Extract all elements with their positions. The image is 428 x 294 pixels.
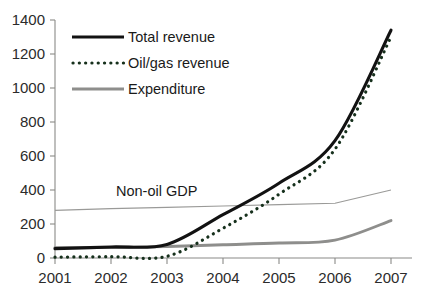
- legend-label-oil-gas-revenue: Oil/gas revenue: [128, 55, 230, 71]
- chart-legend: Total revenue Oil/gas revenue Expenditur…: [72, 29, 230, 97]
- legend-item-oil-gas-revenue[interactable]: Oil/gas revenue: [73, 55, 230, 71]
- x-axis-label-2002: 2002: [94, 269, 127, 286]
- y-axis-label-600: 600: [20, 147, 45, 164]
- y-axis-ticks: [50, 20, 55, 258]
- y-axis-labels: 1400 1200 1000 800 600 400 200 0: [12, 11, 45, 266]
- x-axis-label-2001: 2001: [38, 269, 71, 286]
- series-line-expenditure: [55, 221, 391, 248]
- legend-label-expenditure: Expenditure: [128, 81, 205, 97]
- legend-item-expenditure[interactable]: Expenditure: [72, 81, 205, 97]
- series-line-non-oil-gdp: [55, 190, 391, 210]
- x-axis-label-2007: 2007: [374, 269, 407, 286]
- y-axis-label-800: 800: [20, 113, 45, 130]
- x-axis-label-2006: 2006: [318, 269, 351, 286]
- y-axis-label-200: 200: [20, 215, 45, 232]
- legend-label-total-revenue: Total revenue: [128, 29, 215, 45]
- annotation-non-oil-gdp: Non-oil GDP: [116, 183, 197, 199]
- line-chart: 1400 1200 1000 800 600 400 200 0 2001 20…: [0, 0, 428, 294]
- x-axis-label-2003: 2003: [150, 269, 183, 286]
- y-axis-label-0: 0: [37, 249, 45, 266]
- x-axis-ticks: [55, 258, 391, 264]
- x-axis-label-2004: 2004: [206, 269, 239, 286]
- x-axis-label-2005: 2005: [262, 269, 295, 286]
- y-axis-label-1400: 1400: [12, 11, 45, 28]
- y-axis-label-400: 400: [20, 181, 45, 198]
- legend-item-total-revenue[interactable]: Total revenue: [72, 29, 215, 45]
- y-axis-label-1000: 1000: [12, 79, 45, 96]
- x-axis-labels: 2001 2002 2003 2004 2005 2006 2007: [38, 269, 407, 286]
- y-axis-label-1200: 1200: [12, 45, 45, 62]
